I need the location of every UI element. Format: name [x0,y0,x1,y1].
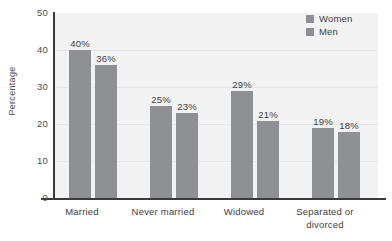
x-label-line: divorced [270,218,380,231]
x-axis-line [41,198,386,200]
bar-never-married-women [150,106,172,199]
legend-item-women: Women [306,14,353,24]
y-tick-label: 0 [4,193,48,203]
bar-widowed-men [257,121,279,199]
x-label-separated-divorced: Separated or divorced [270,205,380,231]
data-label-never-married-men: 23% [167,101,207,112]
data-label-married-men: 36% [86,53,126,64]
legend: Women Men [306,14,353,37]
y-axis-line [53,12,55,200]
y-axis-title: Percentage [7,46,17,136]
data-label-married-women: 40% [60,38,100,49]
legend-label-men: Men [319,27,338,37]
bar-married-men [95,65,117,199]
legend-swatch-men-icon [306,28,314,36]
bar-chart: 40% 36% 25% 23% 29% 21% 19% 18% Women Me… [0,0,392,241]
bar-never-married-men [176,113,198,199]
bar-separated-divorced-women [312,128,334,199]
x-label-line: Separated or [270,205,380,218]
y-tick-label: 50 [4,8,48,18]
legend-swatch-women-icon [306,15,314,23]
data-label-separated-divorced-men: 18% [329,120,369,131]
data-label-widowed-men: 21% [248,109,288,120]
legend-label-women: Women [319,14,353,24]
legend-item-men: Men [306,27,353,37]
gridline [54,50,378,51]
data-label-widowed-women: 29% [222,79,262,90]
bar-widowed-women [231,91,253,199]
bar-separated-divorced-men [338,132,360,199]
plot-area: 40% 36% 25% 23% 29% 21% 19% 18% Women Me… [54,13,378,199]
y-tick-label: 10 [4,156,48,166]
bar-married-women [69,50,91,199]
